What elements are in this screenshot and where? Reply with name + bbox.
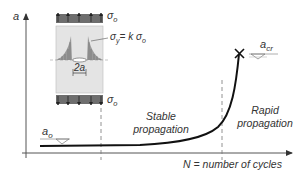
crack-width-label: 2a xyxy=(73,62,86,73)
x-axis-label: N = number of cycles xyxy=(183,158,283,170)
fatigue-crack-growth-diagram: acr ao a N = number of cycles Stable pro… xyxy=(0,0,305,174)
acr-triangle-icon xyxy=(251,54,265,59)
top-stress-label: σo xyxy=(107,9,118,24)
stress-relation-label: σy= k σo xyxy=(110,31,146,45)
bottom-stress-label: σo xyxy=(107,93,118,108)
initial-crack-label: ao xyxy=(42,125,53,140)
rapid-region-label-1: Rapid xyxy=(251,104,280,116)
critical-crack-label: acr xyxy=(260,38,273,53)
y-axis-label: a xyxy=(13,10,19,22)
rapid-region-label-2: propagation xyxy=(236,117,293,129)
stable-region-label-2: propagation xyxy=(132,123,189,135)
ao-triangle-icon xyxy=(56,139,69,144)
specimen-inset: 2a xyxy=(50,13,110,105)
stable-region-label-1: Stable xyxy=(146,110,176,122)
